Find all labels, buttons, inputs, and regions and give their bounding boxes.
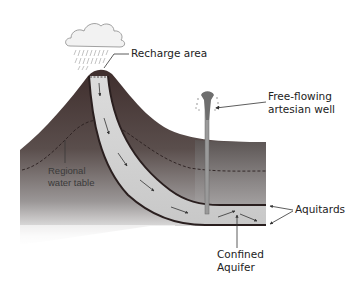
rain-icon — [74, 50, 108, 70]
label-water-table-line1: Regional — [48, 165, 94, 177]
recharge-leader — [104, 54, 129, 68]
label-regional-water-table: Regional water table — [48, 165, 94, 189]
label-confined-aquifer: Confined Aquifer — [217, 248, 264, 274]
label-water-table-line2: water table — [48, 177, 94, 189]
label-confined-line1: Confined — [217, 248, 264, 261]
artesian-aquifer-diagram — [0, 0, 354, 285]
label-free-flowing-artesian-well: Free-flowing artesian well — [268, 90, 335, 116]
label-artesian-line2: artesian well — [268, 103, 335, 116]
label-artesian-line1: Free-flowing — [268, 90, 335, 103]
label-confined-line2: Aquifer — [217, 261, 264, 274]
aquitards-leader-upper — [270, 206, 293, 210]
rain-cloud-icon — [66, 24, 125, 47]
aquitards-leader-lower — [270, 211, 293, 224]
label-recharge-area: Recharge area — [131, 47, 207, 60]
label-aquitards: Aquitards — [295, 203, 345, 216]
well-leader-arrow — [216, 102, 266, 108]
